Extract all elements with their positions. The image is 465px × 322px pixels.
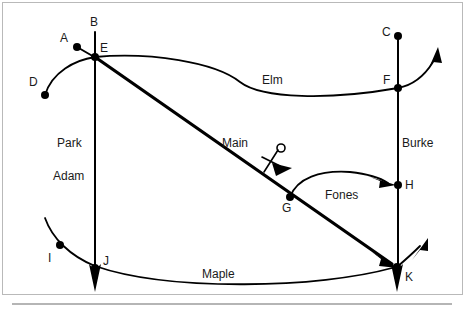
annotation-circle-icon: [277, 144, 285, 152]
node-dot-J: [91, 264, 99, 272]
node-label-B: B: [90, 15, 98, 29]
street-elm-curve: [45, 56, 398, 96]
node-dot-G: [286, 193, 294, 201]
street-label-elm: Elm: [262, 73, 283, 87]
street-label-maple: Maple: [202, 267, 235, 281]
node-label-G: G: [282, 201, 291, 215]
diagram-canvas: A B C D E F G H I J K Park Adam Elm Main…: [0, 0, 465, 322]
maple-exit-segment: [397, 246, 420, 267]
node-dot-E: [91, 53, 99, 61]
street-label-adam: Adam: [53, 169, 84, 183]
node-dot-D: [41, 91, 49, 99]
street-elm-exit: [398, 62, 433, 88]
node-label-C: C: [382, 25, 391, 39]
annotation-triangle-icon: [272, 163, 292, 176]
node-dot-K: [393, 263, 401, 271]
street-main-line: [95, 57, 392, 264]
node-dot-H: [394, 181, 402, 189]
node-dot-I: [56, 241, 64, 249]
fones-arrow-head: [370, 177, 396, 188]
node-dot-F: [394, 84, 402, 92]
maple-arrow-head: [412, 238, 428, 260]
node-label-E: E: [100, 41, 108, 55]
street-label-main: Main: [222, 136, 248, 150]
node-label-F: F: [383, 73, 390, 87]
node-label-H: H: [405, 178, 414, 192]
street-label-fones: Fones: [325, 188, 358, 202]
node-label-A: A: [60, 31, 68, 45]
street-label-burke: Burke: [402, 136, 434, 150]
street-label-park: Park: [57, 136, 83, 150]
node-dot-A: [73, 43, 81, 51]
elm-arrow-head: [428, 47, 442, 70]
node-dot-C: [394, 32, 402, 40]
node-label-J: J: [103, 254, 109, 268]
node-label-K: K: [405, 270, 413, 284]
street-diagram: A B C D E F G H I J K Park Adam Elm Main…: [0, 0, 465, 322]
node-label-D: D: [29, 75, 38, 89]
node-label-I: I: [48, 251, 51, 265]
